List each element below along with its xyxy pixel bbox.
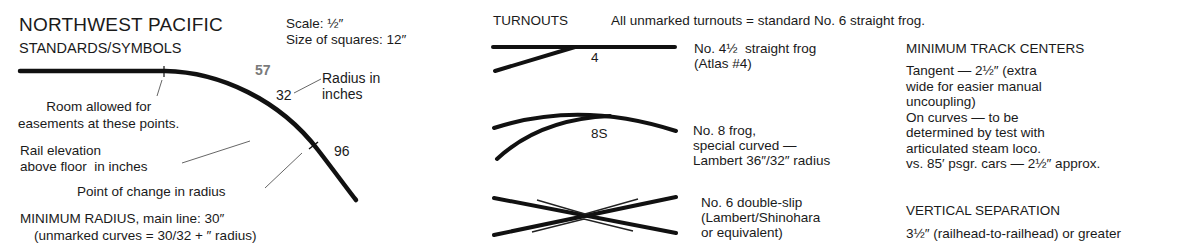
elevation-leader <box>182 141 250 163</box>
turnout-symbol-8s <box>494 115 676 159</box>
elevation-note: Rail elevation above floor in inches <box>20 143 148 175</box>
scale-label: Scale: ½″ <box>286 16 343 32</box>
legend-subtitle: STANDARDS/SYMBOLS <box>19 40 182 57</box>
track-centers-heading: MINIMUM TRACK CENTERS <box>906 41 1084 57</box>
easement-leader <box>157 80 162 96</box>
vertical-separation-heading: VERTICAL SEPARATION <box>906 203 1060 219</box>
vertical-separation-body: 3½″ (railhead-to-railhead) or greater <box>906 226 1121 242</box>
mainline-track <box>20 71 356 200</box>
minimum-radius-note: (unmarked curves = 30/32 + ″ radius) <box>34 228 256 244</box>
change-leader <box>265 153 302 188</box>
squares-size-label: Size of squares: 12″ <box>286 32 406 48</box>
turnout-label-8s: 8S <box>591 126 608 142</box>
turnout-description-4: No. 4½ straight frog (Atlas #4) <box>694 41 816 71</box>
turnout-symbol-4 <box>493 47 675 71</box>
elevation-value: 57 <box>255 62 271 79</box>
minimum-radius: MINIMUM RADIUS, main line: 30″ <box>20 211 224 227</box>
turnout-description-double-slip: No. 6 double-slip (Lambert/Shinohara or … <box>701 195 820 240</box>
radius-leader <box>294 79 321 93</box>
legend-title: NORTHWEST PACIFIC <box>19 14 223 36</box>
turnout-label-4: 4 <box>591 50 599 66</box>
turnout-symbol-double-slip <box>494 197 676 235</box>
turnout-description-8s: No. 8 frog, special curved — Lambert 36″… <box>693 123 830 168</box>
turnouts-default-note: All unmarked turnouts = standard No. 6 s… <box>611 13 925 29</box>
change-point-note: Point of change in radius <box>77 184 226 200</box>
track-centers-body: Tangent — 2½″ (extra wide for easier man… <box>906 63 1100 172</box>
easement-note: Room allowed for easements at these poin… <box>18 98 179 132</box>
turnouts-heading: TURNOUTS <box>493 13 568 29</box>
radius-label: Radius in inches <box>322 70 380 102</box>
radius-value-32: 32 <box>276 87 292 104</box>
radius-value-96: 96 <box>334 143 350 160</box>
